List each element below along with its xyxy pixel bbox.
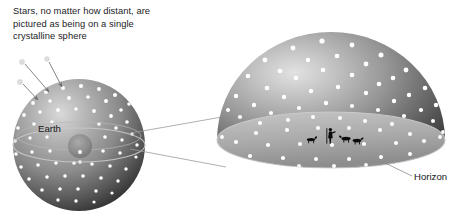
inner-earth-circle: [68, 134, 92, 158]
star-arrow-icon: [25, 64, 49, 92]
connector-line-upper: [131, 117, 222, 133]
horizon-label: Horizon: [414, 171, 447, 182]
distant-star-icon: [44, 56, 50, 62]
distant-star-icon: [19, 59, 25, 65]
star-arrow-icon: [49, 62, 62, 87]
star-arrow-icon: [23, 84, 38, 100]
inner-earth-star: [78, 150, 82, 154]
celestial-sphere-figure: Earth: [0, 0, 464, 214]
small-celestial-sphere-group: Earth: [13, 79, 145, 211]
horizon-leader-line: [383, 162, 412, 176]
horizon-callout: Horizon: [383, 162, 447, 182]
large-celestial-dome-group: [217, 32, 445, 168]
distant-star-icon: [17, 79, 23, 85]
earth-label: Earth: [38, 123, 61, 134]
connector-line-lower: [130, 149, 226, 167]
